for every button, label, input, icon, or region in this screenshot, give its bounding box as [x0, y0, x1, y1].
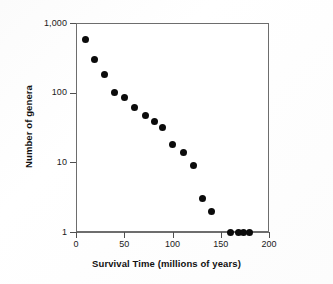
x-axis-tick-label: 200: [254, 240, 284, 249]
x-axis-tick: [124, 232, 125, 238]
data-point: [227, 229, 234, 236]
x-axis-tick: [76, 232, 77, 238]
chart-figure: 1101001,000 050100150200 Number of gener…: [0, 0, 333, 284]
data-point: [246, 229, 253, 236]
x-axis-tick: [221, 232, 222, 238]
x-axis-tick-label: 0: [61, 240, 91, 249]
data-point: [142, 112, 149, 119]
x-axis-tick-label: 150: [206, 240, 236, 249]
y-axis-tick-label: 10: [57, 158, 67, 167]
data-point: [131, 104, 138, 111]
data-point: [101, 71, 108, 78]
data-point: [111, 89, 118, 96]
x-axis-tick: [173, 232, 174, 238]
data-point: [208, 208, 215, 215]
data-point: [199, 195, 206, 202]
data-point: [91, 56, 98, 63]
x-axis-title: Survival Time (millions of years): [0, 258, 333, 269]
data-point: [121, 94, 128, 101]
data-points-layer: [76, 23, 269, 232]
y-axis-title: Number of genera: [23, 52, 34, 202]
data-point: [151, 118, 158, 125]
data-point: [180, 149, 187, 156]
y-axis-tick-label: 1,000: [44, 19, 67, 28]
data-point: [82, 36, 89, 43]
data-point: [190, 162, 197, 169]
data-point: [169, 141, 176, 148]
y-axis-tick-label: 100: [52, 88, 67, 97]
data-point: [159, 124, 166, 131]
y-axis-tick-label: 1: [62, 228, 67, 237]
x-axis-tick: [269, 232, 270, 238]
x-axis-tick-label: 50: [109, 240, 139, 249]
x-axis-tick-label: 100: [158, 240, 188, 249]
